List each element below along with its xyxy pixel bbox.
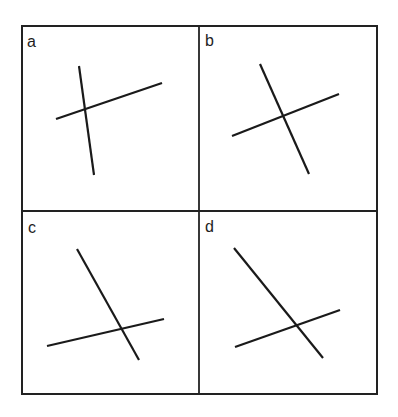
panel-label-c: c [28,219,36,236]
panel-label-b: b [205,32,214,49]
panel-label-a: a [27,33,36,50]
four-panel-figure: a b c d [0,0,398,417]
panel-label-d: d [205,218,214,235]
